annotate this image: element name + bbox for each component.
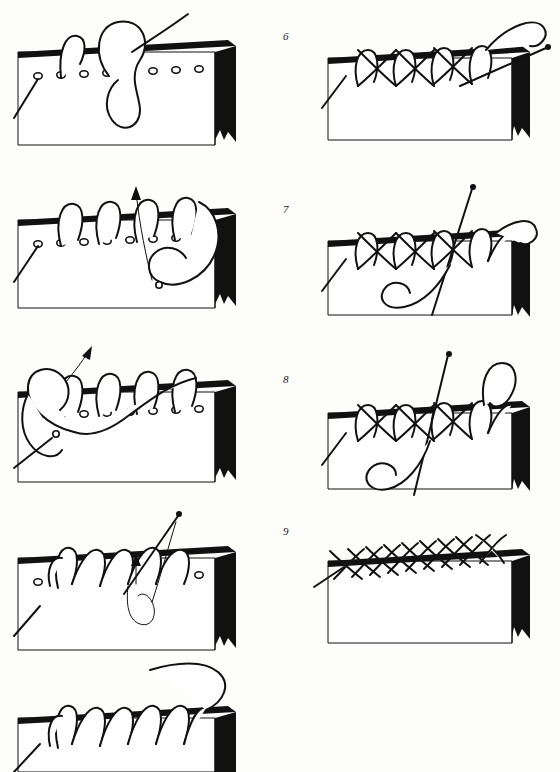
step-number-6: 6 (283, 31, 289, 42)
block-right-edge (512, 235, 530, 317)
step-panel-1 (0, 0, 280, 165)
step-panel-2 (0, 168, 280, 328)
block-right-edge (512, 555, 530, 639)
step-5-figure (0, 660, 280, 772)
block-right-edge (512, 407, 530, 491)
thread-zigzag-row (49, 706, 206, 748)
step-3-figure (0, 334, 280, 499)
block-right-edge (215, 386, 236, 480)
step-panel-9 (300, 525, 560, 660)
step-panel-7 (300, 185, 560, 335)
step-2-figure (0, 168, 280, 328)
thread-rising-loop (483, 363, 516, 406)
step-8-figure (300, 355, 560, 510)
thread-working-curve (486, 23, 546, 50)
step-7-figure (300, 185, 560, 335)
illustration-sheet: 6 7 8 9 (0, 0, 560, 772)
step-panel-5 (0, 660, 280, 772)
step-number-8: 8 (283, 374, 289, 385)
step-9-figure (300, 525, 560, 660)
step-panel-3 (0, 334, 280, 499)
block-right-edge (215, 46, 236, 142)
step-panel-4 (0, 500, 280, 665)
knot-dot (156, 282, 162, 288)
step-6-figure (300, 10, 560, 160)
step-panel-6 (300, 10, 560, 160)
knot-dot (53, 431, 59, 437)
direction-arrow (66, 346, 92, 382)
step-4-figure (0, 500, 280, 665)
step-number-9: 9 (283, 526, 289, 537)
thread-sweep (150, 664, 225, 711)
block-right-edge (215, 712, 236, 772)
block-right-edge (215, 552, 236, 648)
step-panel-8 (300, 355, 560, 510)
step-1-figure (0, 0, 280, 165)
block-right-edge (512, 52, 530, 138)
step-number-7: 7 (283, 204, 289, 215)
